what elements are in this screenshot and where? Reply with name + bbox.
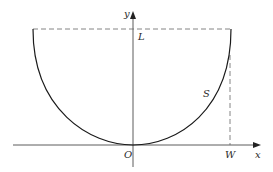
y-axis-label: y bbox=[123, 8, 130, 19]
curve-s bbox=[33, 29, 231, 145]
y-axis bbox=[130, 11, 136, 167]
width-label: W bbox=[225, 149, 236, 160]
top-level-label: L bbox=[137, 31, 145, 42]
diagram-canvas: y L S O W x bbox=[0, 0, 273, 172]
curve-label: S bbox=[203, 88, 210, 99]
origin-label: O bbox=[124, 149, 132, 160]
x-axis-label: x bbox=[255, 149, 261, 160]
x-axis-arrow-icon bbox=[253, 142, 261, 148]
y-axis-arrow-icon bbox=[130, 11, 136, 19]
